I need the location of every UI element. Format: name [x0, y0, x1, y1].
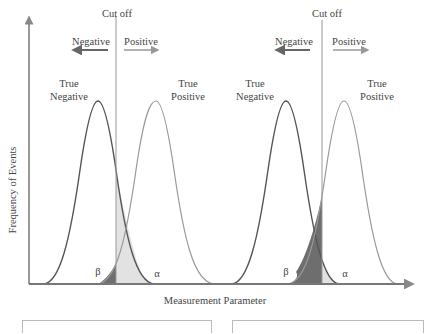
cutoff-label-left: Cut off: [102, 8, 132, 20]
negative-label-left: Negative: [72, 36, 110, 48]
true-negative-label-right-line2: Negative: [236, 91, 274, 103]
true-negative-curve-left: [44, 101, 154, 284]
true-positive-label-right-line1: True: [367, 78, 386, 90]
true-positive-label-right-line2: Positive: [360, 91, 394, 103]
cutoff-label-right: Cut off: [312, 8, 342, 20]
beta-label-right: β: [283, 266, 288, 278]
beta-region-left: [98, 264, 116, 284]
true-negative-label-right-line1: True: [245, 78, 264, 90]
true-negative-label-left-line2: Negative: [50, 91, 88, 103]
true-positive-label-left-line1: True: [178, 78, 197, 90]
beta-label-left: β: [95, 266, 100, 278]
alpha-label-right: α: [342, 268, 348, 280]
true-positive-label-left-line2: Positive: [171, 91, 205, 103]
y-axis-label: Frequency of Events: [7, 147, 18, 234]
alpha-label-left: α: [154, 268, 160, 280]
negative-label-right: Negative: [275, 36, 313, 48]
x-axis-label: Measurement Parameter: [164, 295, 266, 307]
positive-label-right: Positive: [332, 36, 366, 48]
caption-box-right: [232, 320, 424, 333]
alpha-region-left: [116, 174, 154, 284]
positive-label-left: Positive: [124, 36, 158, 48]
true-negative-label-left-line1: True: [59, 78, 78, 90]
true-positive-curve-left: [98, 101, 214, 284]
caption-box-left: [22, 320, 212, 333]
